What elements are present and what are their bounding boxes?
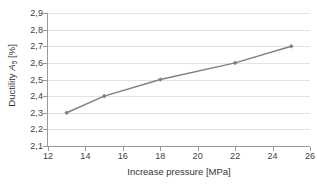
plot-area <box>48 13 310 146</box>
x-tick-label: 14 <box>72 152 98 161</box>
x-axis-title: Increase pressure [MPa] <box>48 166 310 177</box>
y-tick-mark <box>43 129 47 130</box>
y-tick-mark <box>43 80 47 81</box>
y-tick-mark <box>43 113 47 114</box>
y-tick-mark <box>43 46 47 47</box>
y-tick-label: 2,1 <box>13 142 43 151</box>
y-tick-mark <box>43 96 47 97</box>
y-axis-title-unit: [%] <box>6 44 17 60</box>
y-tick-mark <box>43 13 47 14</box>
data-point-marker <box>289 44 294 49</box>
x-axis-line <box>47 146 310 147</box>
y-axis-title-symbol: A <box>6 64 17 70</box>
x-tick-label: 24 <box>260 152 286 161</box>
y-axis-title-subscript: 5 <box>11 61 18 65</box>
data-point-marker <box>233 61 238 66</box>
data-series <box>48 13 310 146</box>
series-line <box>67 46 292 113</box>
x-tick-label: 20 <box>185 152 211 161</box>
y-axis-title: Ductility A5 [%] <box>6 8 21 142</box>
y-tick-mark <box>43 63 47 64</box>
y-axis-title-prefix: Ductility <box>6 71 17 107</box>
x-tick-label: 12 <box>35 152 61 161</box>
x-tick-label: 18 <box>147 152 173 161</box>
data-point-marker <box>64 110 69 115</box>
x-tick-label: 16 <box>110 152 136 161</box>
x-tick-label: 22 <box>222 152 248 161</box>
y-axis-line <box>47 13 48 147</box>
line-chart: 2,12,22,32,42,52,62,72,82,9 121416182022… <box>0 0 317 184</box>
y-tick-mark <box>43 30 47 31</box>
data-point-marker <box>102 94 107 99</box>
data-point-marker <box>158 77 163 82</box>
x-tick-label: 26 <box>297 152 317 161</box>
y-tick-mark <box>43 146 47 147</box>
